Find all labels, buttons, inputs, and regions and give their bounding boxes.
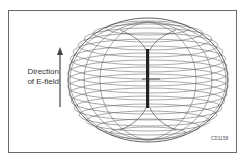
figure-code: CD1158 [211, 136, 228, 141]
e-field-label: Direction of E-field [17, 67, 59, 87]
dipole-antenna [142, 49, 160, 108]
e-field-label-line2: of E-field [17, 77, 59, 87]
e-field-label-line1: Direction [17, 67, 59, 77]
